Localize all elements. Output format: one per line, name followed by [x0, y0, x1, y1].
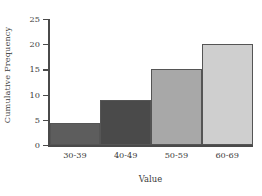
- x-axis-tick-label: 30-39: [50, 151, 101, 159]
- plot-area: [48, 19, 253, 145]
- x-axis-tick-labels: 30-3940-4950-5960-69: [50, 151, 253, 165]
- y-axis-title: Cumulative Frequency: [0, 0, 14, 150]
- y-axis-title-label: Cumulative Frequency: [2, 27, 12, 123]
- x-axis-tick-label: 60-69: [202, 151, 253, 159]
- x-axis-line: [48, 145, 253, 147]
- y-axis-tick-mark: [43, 19, 48, 20]
- y-axis-tick-label: 5: [16, 116, 40, 124]
- bar: [151, 69, 202, 145]
- y-axis-tick-mark: [43, 120, 48, 121]
- y-axis-tick-mark: [43, 44, 48, 45]
- y-axis-tick-label: 25: [16, 15, 40, 23]
- y-axis-tick-label: 20: [16, 40, 40, 48]
- y-axis-tick-mark: [43, 69, 48, 70]
- bar: [50, 123, 101, 145]
- y-axis-tick-mark: [43, 95, 48, 96]
- bars-layer: [50, 19, 253, 145]
- y-axis-tick-label: 10: [16, 90, 40, 98]
- y-axis-tick-label: 15: [16, 65, 40, 73]
- bar: [100, 100, 151, 145]
- x-axis-title: Value: [48, 174, 253, 184]
- y-axis-tick-labels: 0510152025: [16, 0, 40, 160]
- y-axis-tick-mark: [43, 145, 48, 146]
- y-axis-tick-label: 0: [16, 141, 40, 149]
- x-axis-tick-label: 50-59: [151, 151, 202, 159]
- x-axis-title-label: Value: [139, 174, 162, 184]
- cumulative-frequency-bar-chart: Cumulative Frequency 0510152025 30-3940-…: [0, 0, 262, 196]
- x-axis-tick-label: 40-49: [100, 151, 151, 159]
- bar: [202, 44, 253, 145]
